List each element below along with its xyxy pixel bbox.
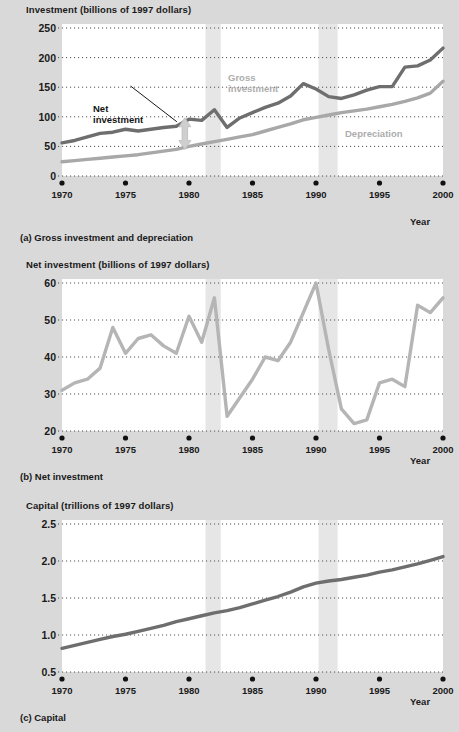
x-tick-label: 1995	[369, 189, 390, 200]
x-tick-label: 1995	[369, 444, 390, 455]
x-tick-label: 1970	[51, 685, 72, 696]
panel-c-plot	[0, 514, 459, 682]
x-tick-label: 1980	[178, 189, 199, 200]
x-tick-label: 1980	[178, 444, 199, 455]
x-tick-label: 1975	[115, 189, 136, 200]
x-tick-label: 1990	[305, 444, 326, 455]
x-tick-label: 1975	[115, 685, 136, 696]
gross-investment-label: Gross investment	[228, 72, 278, 94]
x-tick-label: 1980	[178, 685, 199, 696]
x-tick-label: 1990	[305, 189, 326, 200]
x-tick-label: 1970	[51, 189, 72, 200]
y-tick-label: 40	[14, 351, 56, 363]
x-tick-label: 1985	[242, 444, 263, 455]
figure-root: Investment (billions of 1997 dollars) Gr…	[0, 0, 459, 732]
panel-c-caption: (c) Capital	[20, 712, 66, 723]
y-tick-label: 1.0	[14, 629, 56, 641]
x-tick-label: 1990	[305, 685, 326, 696]
x-tick-label: 1975	[115, 444, 136, 455]
x-tick-label: 1985	[242, 685, 263, 696]
panel-a-x-axis-label: Year	[410, 216, 430, 227]
panel-c-x-axis-label: Year	[410, 696, 430, 707]
panel-b-caption: (b) Net investment	[20, 471, 103, 482]
depreciation-label: Depreciation	[345, 128, 403, 139]
x-tick-label: 1985	[242, 189, 263, 200]
panel-a-plot	[0, 18, 459, 186]
gross-investment-label-line2: investment	[228, 83, 278, 94]
y-tick-label: 0	[14, 170, 56, 182]
panel-a-caption: (a) Gross investment and depreciation	[20, 232, 193, 243]
x-tick-label: 2000	[432, 444, 453, 455]
net-investment-label: Net investment	[93, 103, 143, 125]
y-tick-label: 30	[14, 388, 56, 400]
y-tick-label: 50	[14, 314, 56, 326]
panel-b-axis-title: Net investment (billions of 1997 dollars…	[26, 259, 210, 270]
y-tick-label: 200	[14, 52, 56, 64]
y-tick-label: 2.0	[14, 555, 56, 567]
net-investment-label-line2: investment	[93, 114, 143, 125]
panel-b-x-axis-label: Year	[410, 455, 430, 466]
y-tick-label: 50	[14, 140, 56, 152]
net-investment-label-line1: Net	[93, 103, 143, 114]
y-tick-label: 250	[14, 22, 56, 34]
panel-a-axis-title: Investment (billions of 1997 dollars)	[26, 4, 191, 15]
y-tick-label: 2.5	[14, 518, 56, 530]
x-tick-label: 2000	[432, 189, 453, 200]
y-tick-label: 0.5	[14, 666, 56, 678]
y-tick-label: 20	[14, 425, 56, 437]
y-tick-label: 100	[14, 111, 56, 123]
gross-investment-label-line1: Gross	[228, 72, 278, 83]
panel-b-plot	[0, 273, 459, 441]
y-tick-label: 1.5	[14, 592, 56, 604]
y-tick-label: 150	[14, 81, 56, 93]
x-tick-label: 1995	[369, 685, 390, 696]
y-tick-label: 60	[14, 277, 56, 289]
x-tick-label: 1970	[51, 444, 72, 455]
x-tick-label: 2000	[432, 685, 453, 696]
panel-c-axis-title: Capital (trillions of 1997 dollars)	[26, 500, 174, 511]
